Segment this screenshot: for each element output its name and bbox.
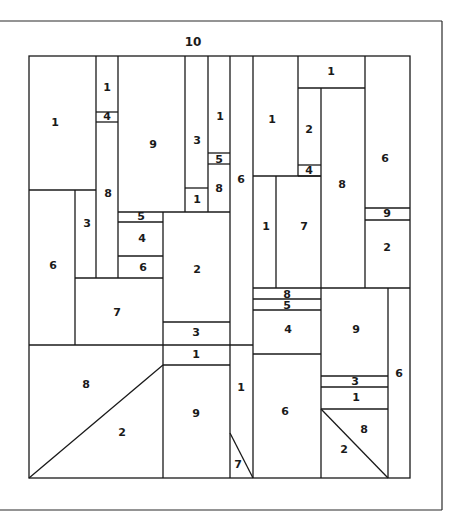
region-label: 3 bbox=[192, 326, 200, 339]
region-label: 1 bbox=[327, 65, 335, 78]
divider-line bbox=[29, 365, 163, 478]
region-label: 6 bbox=[139, 261, 147, 274]
pattern-diagram: 10 1148931158611248692173654627318291785… bbox=[0, 0, 451, 523]
region-label: 1 bbox=[193, 193, 201, 206]
divider-line bbox=[230, 433, 253, 478]
region-label: 4 bbox=[103, 110, 111, 123]
region-label: 5 bbox=[215, 153, 223, 166]
region-label: 7 bbox=[300, 220, 308, 233]
region-label: 6 bbox=[237, 173, 245, 186]
region-label: 2 bbox=[193, 263, 201, 276]
region-label: 1 bbox=[192, 348, 200, 361]
region-label: 8 bbox=[104, 187, 112, 200]
region-label: 6 bbox=[381, 152, 389, 165]
region-label: 4 bbox=[138, 232, 146, 245]
region-label: 1 bbox=[103, 81, 111, 94]
region-label: 3 bbox=[83, 217, 91, 230]
region-label: 3 bbox=[351, 375, 359, 388]
region-label: 4 bbox=[284, 323, 292, 336]
region-label: 9 bbox=[192, 407, 200, 420]
region-label: 8 bbox=[82, 378, 90, 391]
region-label: 1 bbox=[352, 391, 360, 404]
region-label: 7 bbox=[113, 306, 121, 319]
region-label: 2 bbox=[340, 443, 348, 456]
region-label: 1 bbox=[216, 110, 224, 123]
border-color-label: 10 bbox=[185, 35, 202, 49]
region-label: 1 bbox=[237, 381, 245, 394]
region-label: 9 bbox=[383, 207, 391, 220]
region-label: 2 bbox=[305, 123, 313, 136]
region-label: 2 bbox=[118, 426, 126, 439]
outer-border bbox=[0, 21, 442, 510]
region-label: 1 bbox=[51, 116, 59, 129]
region-label: 8 bbox=[338, 178, 346, 191]
region-label: 9 bbox=[352, 323, 360, 336]
region-number-labels: 1148931158611248692173654627318291785496… bbox=[49, 65, 403, 471]
region-label: 8 bbox=[360, 423, 368, 436]
region-label: 5 bbox=[137, 210, 145, 223]
region-label: 6 bbox=[281, 405, 289, 418]
region-label: 7 bbox=[234, 458, 242, 471]
region-label: 6 bbox=[49, 259, 57, 272]
region-label: 2 bbox=[383, 241, 391, 254]
region-label: 4 bbox=[305, 164, 313, 177]
divider-line bbox=[321, 409, 388, 478]
region-label: 8 bbox=[215, 182, 223, 195]
region-label: 3 bbox=[193, 134, 201, 147]
region-label: 5 bbox=[283, 299, 291, 312]
region-label: 6 bbox=[395, 367, 403, 380]
region-label: 1 bbox=[262, 220, 270, 233]
region-label: 1 bbox=[268, 113, 276, 126]
region-label: 9 bbox=[149, 138, 157, 151]
